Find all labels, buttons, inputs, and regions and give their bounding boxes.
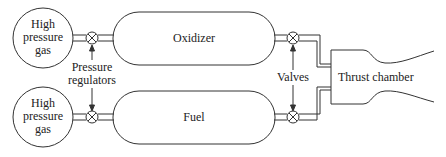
gas-tank-top-label: High pressure gas [23, 18, 63, 57]
label-line: regulators [62, 74, 122, 87]
regulators-label: Pressure regulators [62, 61, 122, 87]
pipe-valve-chamber-top [299, 35, 331, 67]
arrow-to-regulator-bottom [90, 88, 95, 111]
arrow-to-regulator-top [90, 45, 95, 60]
pipe-gas-reg-top [73, 35, 86, 41]
valve-bottom-icon [287, 111, 299, 123]
pipe-reg-fuel [98, 114, 114, 120]
arrow-to-valve-top [291, 45, 296, 70]
pipe-gas-reg-bottom [73, 114, 86, 120]
oxidizer-label: Oxidizer [154, 32, 234, 45]
chamber-label: Thrust chamber [338, 71, 434, 84]
regulator-bottom-icon [86, 111, 98, 123]
fuel-label: Fuel [154, 111, 234, 124]
valve-top-icon [287, 32, 299, 44]
pipe-fuel-valve [274, 114, 287, 120]
gas-tank-bottom-label: High pressure gas [23, 97, 63, 136]
pipe-reg-oxidizer [98, 35, 114, 41]
arrow-to-valve-bottom [291, 85, 296, 111]
label-line: gas [23, 123, 63, 136]
label-line: gas [23, 44, 63, 57]
regulator-top-icon [86, 32, 98, 44]
pipe-oxidizer-valve [274, 35, 287, 41]
pipe-valve-chamber-bottom [299, 87, 331, 120]
valves-label: Valves [270, 71, 316, 84]
